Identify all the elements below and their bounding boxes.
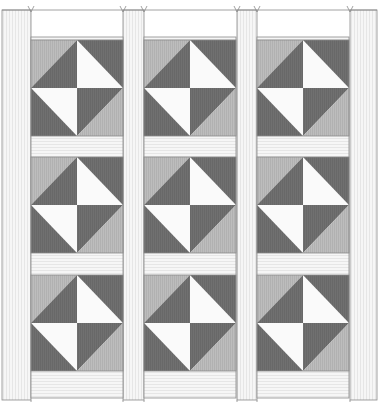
vertical-sashing-3: [237, 10, 257, 400]
quilt-diagram: [0, 0, 380, 402]
vertical-sashing-4: [350, 10, 377, 400]
vertical-sashing-1: [2, 10, 31, 400]
vertical-sashing-2: [123, 10, 144, 400]
